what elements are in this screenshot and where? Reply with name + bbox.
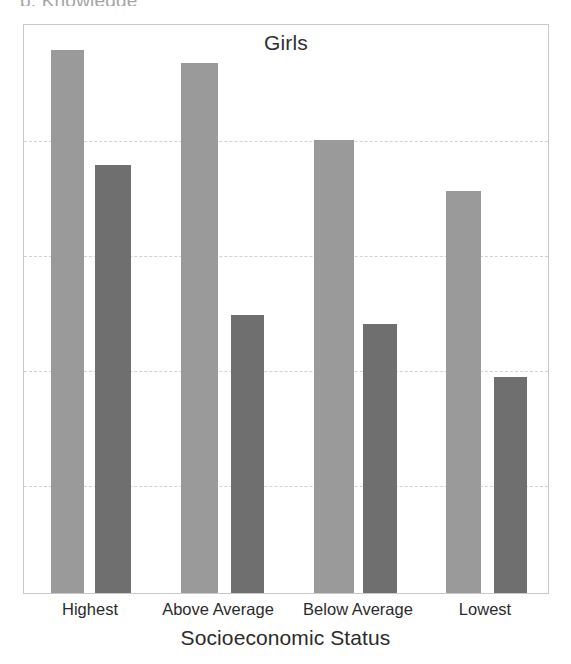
clipped-header-text: p, Knowledge bbox=[20, 0, 320, 6]
bar-below-average-light-bar bbox=[314, 140, 354, 593]
x-tick-label-below-average: Below Average bbox=[303, 600, 413, 619]
bar-highest-light-bar bbox=[51, 50, 84, 593]
series-title: Girls bbox=[24, 31, 548, 55]
x-tick-label-above-average: Above Average bbox=[162, 600, 274, 619]
plot-area: Girls bbox=[23, 24, 549, 594]
bar-highest-dark-bar bbox=[95, 165, 131, 593]
bar-lowest-dark-bar bbox=[494, 377, 527, 593]
bar-below-average-dark-bar bbox=[363, 324, 397, 593]
x-tick-label-highest: Highest bbox=[62, 600, 118, 619]
bar-above-average-dark-bar bbox=[231, 315, 264, 593]
bar-lowest-light-bar bbox=[446, 191, 481, 593]
x-axis-tick-labels: HighestAbove AverageBelow AverageLowest bbox=[23, 600, 549, 626]
x-axis-title: Socioeconomic Status bbox=[0, 626, 571, 650]
gridline-1 bbox=[24, 141, 548, 142]
bar-chart-figure: p, Knowledge Girls HighestAbove AverageB… bbox=[0, 0, 571, 664]
x-tick-label-lowest: Lowest bbox=[459, 600, 511, 619]
bar-above-average-light-bar bbox=[181, 63, 218, 593]
